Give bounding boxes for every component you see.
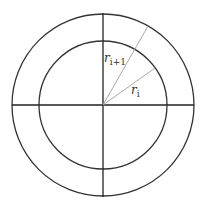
annulus-diagram: ri+1 ri bbox=[0, 0, 203, 208]
label-inner-radius: ri bbox=[131, 83, 140, 99]
ray-inner-radius bbox=[103, 68, 155, 105]
label-outer-radius: ri+1 bbox=[104, 51, 126, 67]
